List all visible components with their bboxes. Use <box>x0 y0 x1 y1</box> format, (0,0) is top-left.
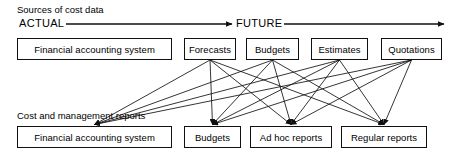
source-quotations[interactable]: Quotations <box>381 38 442 60</box>
connector-source-forecasts-to-report-budgets <box>210 60 213 125</box>
report-node-label: Regular reports <box>351 132 417 143</box>
source-node-label: Forecasts <box>189 44 231 55</box>
connector-source-budgets-to-report-regular-reports <box>273 60 385 125</box>
connector-source-quotations-to-report-ad-hoc-reports <box>291 60 412 125</box>
source-budgets[interactable]: Budgets <box>246 38 299 60</box>
source-financial-accounting-system[interactable]: Financial accounting system <box>17 38 172 60</box>
report-node-label: Ad hoc reports <box>260 132 322 143</box>
sources-of-cost-data-caption: Sources of cost data <box>17 4 104 15</box>
source-node-label: Estimates <box>318 44 360 55</box>
report-budgets[interactable]: Budgets <box>184 126 241 148</box>
report-node-label: Financial accounting system <box>34 132 155 143</box>
report-regular-reports[interactable]: Regular reports <box>341 126 427 148</box>
source-estimates[interactable]: Estimates <box>311 38 368 60</box>
report-node-label: Budgets <box>195 132 230 143</box>
connector-source-estimates-to-report-ad-hoc-reports <box>291 60 340 125</box>
timeline-end-label: FUTURE <box>234 17 284 29</box>
connector-source-forecasts-to-report-regular-reports <box>210 60 384 125</box>
cost-data-flow-diagram: Sources of cost data ACTUAL FUTURE Cost … <box>0 0 457 160</box>
source-forecasts[interactable]: Forecasts <box>184 38 236 60</box>
connector-source-estimates-to-report-regular-reports <box>340 60 385 125</box>
source-node-label: Quotations <box>388 44 434 55</box>
connector-source-estimates-to-report-budgets <box>213 60 340 125</box>
source-node-label: Budgets <box>255 44 290 55</box>
cost-and-management-reports-caption: Cost and management reports <box>17 110 145 121</box>
report-ad-hoc-reports[interactable]: Ad hoc reports <box>250 126 332 148</box>
report-financial-accounting-system[interactable]: Financial accounting system <box>17 126 172 148</box>
timeline-start-label: ACTUAL <box>17 17 66 29</box>
source-node-label: Financial accounting system <box>34 44 155 55</box>
connector-source-quotations-to-report-regular-reports <box>384 60 412 125</box>
connector-source-forecasts-to-report-ad-hoc-reports <box>210 60 291 125</box>
